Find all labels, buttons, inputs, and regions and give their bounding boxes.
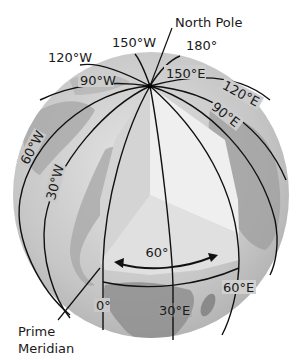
label-120w: 120°W [48,50,92,65]
label-150w: 150°W [112,35,156,50]
angle-label: 60° [145,245,168,260]
label-0: 0° [96,298,111,313]
label-60e: 60°E [223,280,254,295]
label-30e: 30°E [159,303,190,318]
prime-meridian-label-line1: Prime [18,324,55,339]
longitude-globe-diagram: 60° North Pole 150°W 180° 120°W 90°W 150… [0,0,300,358]
label-90w: 90°W [80,73,116,88]
prime-meridian-label-line2: Meridian [18,341,74,356]
label-180: 180° [186,38,217,53]
label-150e: 150°E [166,66,206,81]
north-pole-label: North Pole [175,15,242,30]
